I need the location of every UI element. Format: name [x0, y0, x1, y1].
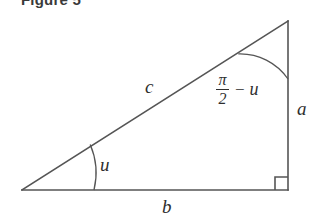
hypotenuse-label: c — [145, 76, 153, 98]
apex-angle-variable: u — [250, 79, 259, 100]
adjacent-side-label: b — [162, 196, 172, 218]
right-angle-marker — [275, 177, 288, 190]
pi-over-two-fraction: π 2 — [216, 72, 229, 108]
fraction-numerator: π — [216, 72, 228, 89]
apex-angle-label: π 2 − u — [216, 72, 259, 108]
fraction-denominator: 2 — [217, 90, 229, 107]
figure-container: Figure 5 c a b u π 2 − u — [0, 0, 318, 223]
opposite-side-label: a — [297, 98, 307, 120]
right-triangle-diagram — [0, 0, 318, 223]
base-angle-arc — [90, 145, 96, 190]
minus-operator: − — [235, 80, 245, 100]
base-angle-label: u — [100, 154, 110, 176]
